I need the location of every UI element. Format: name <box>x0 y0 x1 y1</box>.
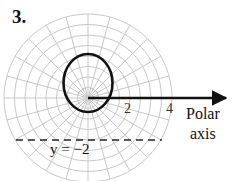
tick-label-2: 2 <box>124 101 131 117</box>
polar-axis-label-line1: Polar <box>186 104 220 124</box>
polar-axis-label: Polar axis <box>186 104 220 144</box>
polar-axis-label-line2: axis <box>186 124 220 144</box>
line-equation-label: y = −2 <box>50 141 89 158</box>
tick-label-4: 4 <box>166 101 173 117</box>
polar-graph-svg <box>0 0 238 181</box>
polar-diagram: 3. 2 4 Polar axis y = −2 <box>0 0 238 181</box>
problem-number: 3. <box>12 6 26 28</box>
